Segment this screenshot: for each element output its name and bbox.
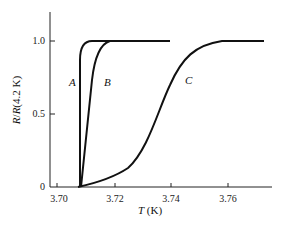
x-axis-label: T (K)	[138, 204, 162, 217]
y-axis-label: R/R(4.2 K)	[10, 76, 23, 126]
y-tick-0.5: 0.5	[33, 108, 46, 119]
x-tick-3.74: 3.74	[162, 193, 180, 204]
series-c-curve	[78, 41, 264, 187]
y-tick-0: 0	[40, 181, 45, 192]
series-c-label: C	[185, 74, 193, 86]
series-a-label: A	[68, 76, 76, 88]
x-tick-3.76: 3.76	[219, 193, 237, 204]
chart: 1.0 0.5 0 3.70 3.72 3.74 3.76 T (K) R/R(…	[0, 0, 283, 226]
series-b-curve	[81, 41, 148, 187]
x-tick-3.70: 3.70	[50, 193, 68, 204]
series-b-label: B	[104, 76, 111, 88]
x-tick-3.72: 3.72	[106, 193, 124, 204]
series-a-curve	[80, 41, 170, 187]
y-tick-1.0: 1.0	[33, 35, 46, 46]
